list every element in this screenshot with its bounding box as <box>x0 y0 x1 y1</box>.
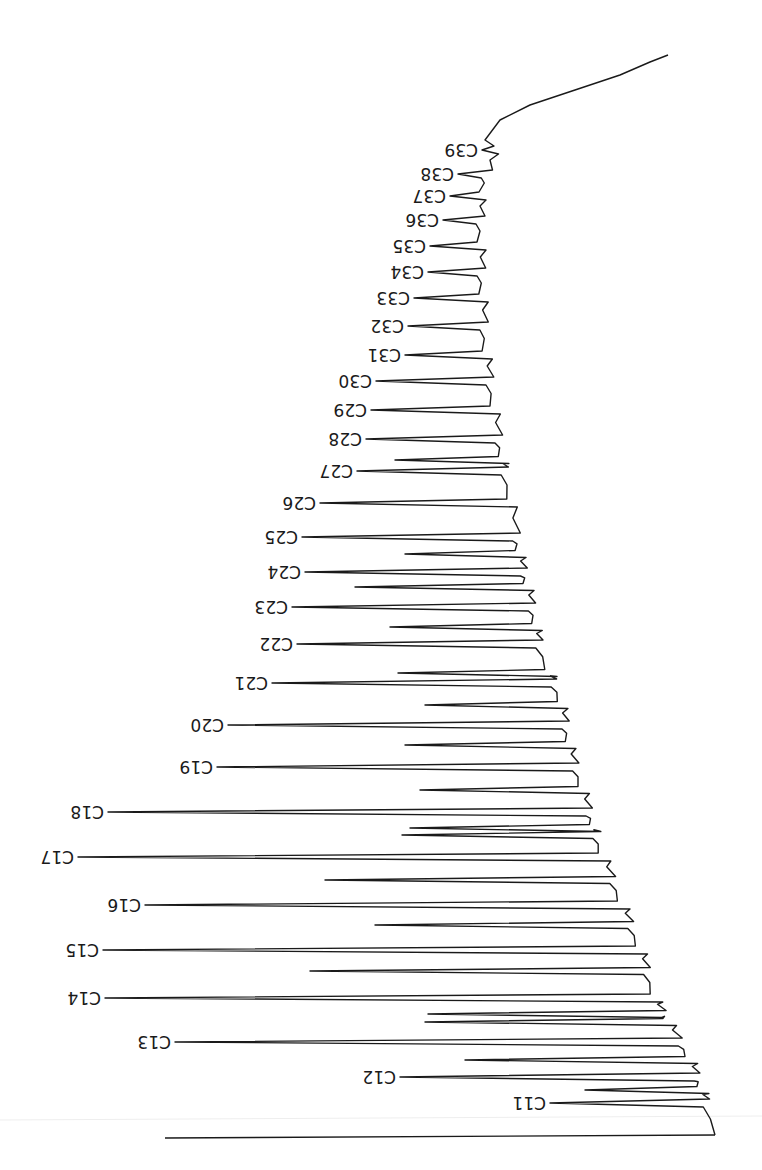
svg-text:C20: C20 <box>190 715 224 735</box>
peak-label-c16: C16 <box>107 895 141 915</box>
peak-label-c27: C27 <box>319 461 353 481</box>
svg-text:C31: C31 <box>367 345 401 365</box>
peak-label-c12: C12 <box>362 1067 396 1087</box>
peak-label-c31: C31 <box>367 345 401 365</box>
svg-text:C19: C19 <box>179 757 213 777</box>
svg-text:C26: C26 <box>282 493 316 513</box>
paper-fold-line <box>0 1116 762 1120</box>
peak-label-c24: C24 <box>267 562 301 582</box>
peak-label-c11: C11 <box>512 1093 546 1113</box>
chromatogram-chart: C11C12C13C14C15C16C17C18C19C20C21C22C23C… <box>0 0 762 1170</box>
peak-label-c18: C18 <box>70 802 104 822</box>
svg-text:C35: C35 <box>392 236 426 256</box>
peak-label-c32: C32 <box>370 316 404 336</box>
svg-text:C24: C24 <box>267 562 301 582</box>
peak-label-c23: C23 <box>254 597 288 617</box>
peak-label-c14: C14 <box>67 988 101 1008</box>
svg-text:C13: C13 <box>137 1032 171 1052</box>
peak-label-c22: C22 <box>259 634 293 654</box>
svg-text:C12: C12 <box>362 1067 396 1087</box>
svg-text:C38: C38 <box>420 164 454 184</box>
svg-text:C32: C32 <box>370 316 404 336</box>
svg-text:C15: C15 <box>65 940 99 960</box>
peak-label-c20: C20 <box>190 715 224 735</box>
peak-label-c26: C26 <box>282 493 316 513</box>
svg-text:C11: C11 <box>512 1093 546 1113</box>
peak-label-c33: C33 <box>376 288 410 308</box>
svg-text:C27: C27 <box>319 461 353 481</box>
peak-label-c21: C21 <box>234 673 268 693</box>
svg-text:C16: C16 <box>107 895 141 915</box>
peak-label-c34: C34 <box>390 262 424 282</box>
svg-text:C39: C39 <box>444 140 478 160</box>
peak-label-c17: C17 <box>40 847 74 867</box>
svg-text:C22: C22 <box>259 634 293 654</box>
peak-label-c30: C30 <box>338 371 372 391</box>
svg-text:C14: C14 <box>67 988 101 1008</box>
svg-text:C34: C34 <box>390 262 424 282</box>
chromatogram-trace <box>78 55 715 1135</box>
peak-label-c39: C39 <box>444 140 478 160</box>
svg-text:C30: C30 <box>338 371 372 391</box>
svg-text:C33: C33 <box>376 288 410 308</box>
svg-text:C21: C21 <box>234 673 268 693</box>
peak-label-c15: C15 <box>65 940 99 960</box>
svg-text:C36: C36 <box>405 210 439 230</box>
svg-text:C37: C37 <box>412 186 446 206</box>
peak-label-c38: C38 <box>420 164 454 184</box>
peak-label-c28: C28 <box>328 429 362 449</box>
svg-text:C29: C29 <box>333 400 367 420</box>
peak-labels: C11C12C13C14C15C16C17C18C19C20C21C22C23C… <box>40 140 546 1113</box>
baseline-tail <box>165 1135 715 1138</box>
peak-label-c37: C37 <box>412 186 446 206</box>
svg-text:C28: C28 <box>328 429 362 449</box>
peak-label-c13: C13 <box>137 1032 171 1052</box>
peak-label-c25: C25 <box>264 527 298 547</box>
peak-label-c35: C35 <box>392 236 426 256</box>
peak-label-c19: C19 <box>179 757 213 777</box>
svg-text:C18: C18 <box>70 802 104 822</box>
svg-text:C25: C25 <box>264 527 298 547</box>
svg-text:C17: C17 <box>40 847 74 867</box>
peak-label-c36: C36 <box>405 210 439 230</box>
peak-label-c29: C29 <box>333 400 367 420</box>
svg-text:C23: C23 <box>254 597 288 617</box>
